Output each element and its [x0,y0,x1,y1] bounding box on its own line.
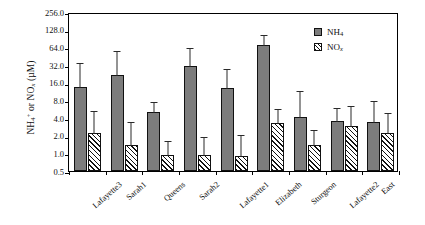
legend-swatch-nh4-icon [314,28,322,36]
x-tick-label: Lafayette3 [91,180,124,210]
bar-group [367,12,395,171]
y-tick-mark [65,155,69,156]
bar-nox [161,155,174,171]
y-tick-label: 32.0 [49,62,64,70]
bar-group [73,12,101,171]
error-bar [204,137,205,156]
bar-nox [198,155,211,171]
chart-legend: NH4 NOx [314,24,343,54]
error-bar-cap [334,108,341,109]
error-bar [94,111,95,134]
error-bar-cap [128,122,135,123]
bar-group [110,12,138,171]
x-tick-label: Lafayette2 [348,180,381,210]
x-tick-label: Elizabeth [273,180,303,208]
error-bar [190,48,191,67]
legend-label-nox: NOx [327,42,343,52]
bar-nox [235,156,248,171]
error-bar-cap [114,51,121,52]
x-tick-label: Sarah1 [125,180,148,202]
error-bar-cap [260,35,267,36]
y-tick-label: 4.0 [53,115,64,123]
error-bar [227,69,228,89]
error-bar [263,35,264,47]
error-bar [117,51,118,75]
x-tick-mark [362,171,363,175]
bar-nh4 [331,121,344,171]
y-axis-tick-labels: 256.0128.064.032.016.08.04.02.01.00.5 [18,0,64,225]
legend-swatch-nox-icon [314,43,322,51]
error-bar [351,106,352,127]
bar-nh4 [147,112,160,171]
error-bar-cap [238,135,245,136]
legend-label-nh4: NH4 [327,27,343,37]
error-bar [373,101,374,123]
bar-nox [308,145,321,171]
y-tick-label: 8.0 [53,97,64,105]
bar-group [220,12,248,171]
error-bar-cap [311,130,318,131]
error-bar-cap [91,111,98,112]
y-tick-mark [65,14,69,15]
bar-nh4 [74,87,87,171]
x-tick-mark [399,171,400,175]
error-bar-cap [187,48,194,49]
bar-group [147,12,175,171]
x-tick-mark [216,171,217,175]
plot-area [68,13,398,172]
error-bar-cap [348,106,355,107]
error-bar-cap [384,113,391,114]
x-tick-label: Sturgeon [310,180,339,207]
x-tick-label: Queens [162,180,187,203]
error-bar-cap [224,69,231,70]
x-tick-mark [106,171,107,175]
legend-item-nh4: NH4 [314,24,343,39]
error-bar [277,109,278,124]
x-tick-mark [326,171,327,175]
bar-nox [345,126,358,171]
y-tick-label: 0.5 [53,168,64,176]
error-bar-cap [201,137,208,138]
bar-nox [271,123,284,171]
y-tick-label: 1.0 [53,150,64,158]
y-tick-mark [65,85,69,86]
error-bar [167,141,168,156]
error-bar [314,130,315,146]
error-bar-cap [297,91,304,92]
y-tick-mark [65,32,69,33]
bar-nh4 [294,117,307,171]
y-tick-mark [65,120,69,121]
bar-nh4 [111,75,124,171]
x-tick-mark [289,171,290,175]
bar-nox [125,145,138,171]
x-tick-label: Sarah2 [198,180,221,202]
error-bar-cap [370,101,377,102]
y-tick-label: 128.0 [45,26,64,34]
error-bar [387,113,388,134]
x-tick-mark [69,171,70,175]
error-bar [337,108,338,122]
y-tick-mark [65,138,69,139]
x-tick-mark [179,171,180,175]
bar-nh4 [367,122,380,171]
error-bar [131,122,132,146]
error-bar [80,63,81,88]
bar-nox [381,133,394,171]
error-bar [300,91,301,118]
error-bar [153,102,154,113]
bar-nh4 [221,88,234,171]
y-tick-label: 16.0 [49,79,64,87]
bar-nh4 [257,45,270,171]
bar-chart-figure: NH4+ or NOx (µM) 256.0128.064.032.016.08… [0,0,425,225]
legend-item-nox: NOx [314,39,343,54]
bar-group [183,12,211,171]
bar-nh4 [184,66,197,171]
y-tick-mark [65,67,69,68]
y-tick-mark [65,49,69,50]
y-tick-mark [65,102,69,103]
y-tick-label: 256.0 [45,9,64,17]
x-tick-mark [252,171,253,175]
error-bar-cap [164,141,171,142]
error-bar-cap [77,63,84,64]
bar-group [257,12,285,171]
